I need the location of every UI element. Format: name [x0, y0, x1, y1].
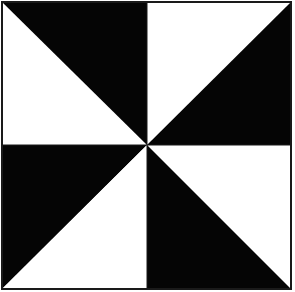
quadrant-bottom-right	[147, 145, 291, 289]
quadrant-top-left	[2, 2, 147, 145]
pinwheel-diagram	[0, 0, 295, 292]
quadrant-bottom-left	[2, 145, 147, 289]
quadrant-top-right	[147, 2, 291, 145]
